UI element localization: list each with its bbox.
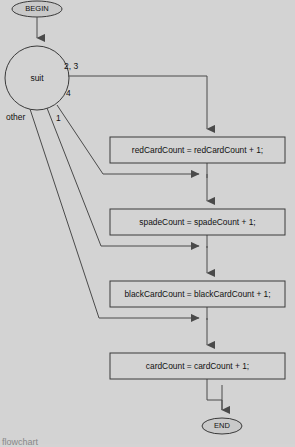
edge-label-one: 1: [56, 113, 61, 123]
begin-label: BEGIN: [25, 4, 48, 13]
process-node-redcardcount: redCardCount = redCardCount + 1;: [110, 137, 285, 163]
edge-label-four: 4: [66, 88, 71, 98]
edge-suit-to-redcardcount: [68, 76, 207, 129]
begin-terminator: BEGIN: [12, 1, 62, 17]
edge-label-other: other: [6, 112, 26, 122]
spadecount-label: spadeCount = spadeCount + 1;: [139, 217, 255, 227]
end-label: END: [214, 421, 230, 430]
blackcardcount-label: blackCardCount = blackCardCount + 1;: [124, 289, 270, 299]
redcardcount-label: redCardCount = redCardCount + 1;: [132, 145, 263, 155]
process-node-spadecount: spadeCount = spadeCount + 1;: [110, 209, 285, 235]
edge-label-two-three: 2, 3: [64, 61, 78, 71]
end-terminator: END: [202, 418, 242, 434]
figure-caption: flowchart: [2, 437, 38, 447]
cardcount-label: cardCount = cardCount + 1;: [146, 361, 249, 371]
edge-cardcount-join: [207, 379, 222, 410]
suit-label: suit: [30, 73, 44, 83]
process-node-blackcardcount: blackCardCount = blackCardCount + 1;: [110, 281, 285, 307]
decision-node-suit: suit: [5, 46, 69, 110]
process-node-cardcount: cardCount = cardCount + 1;: [110, 353, 285, 379]
